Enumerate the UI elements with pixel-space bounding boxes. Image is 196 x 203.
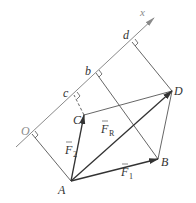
label-vector-FR: F R bbox=[100, 121, 115, 138]
projection-line-D-d bbox=[132, 42, 172, 91]
label-point-D: D bbox=[173, 84, 183, 98]
right-angle-marker-c bbox=[77, 92, 80, 99]
projection-line-C-c bbox=[74, 95, 84, 115]
label-projection-c: c bbox=[63, 86, 69, 100]
right-angle-marker-O bbox=[35, 131, 38, 138]
label-FR-main: F bbox=[100, 122, 109, 136]
projection-line-B-b bbox=[96, 73, 158, 159]
label-projection-d: d bbox=[123, 28, 130, 42]
label-point-B: B bbox=[161, 155, 169, 169]
label-FR-sub: R bbox=[109, 129, 115, 138]
x-axis-line bbox=[16, 18, 154, 147]
label-projection-b: b bbox=[85, 64, 91, 78]
label-x-axis: x bbox=[139, 6, 145, 18]
label-F1-sub: 1 bbox=[129, 172, 133, 181]
label-origin-O: O bbox=[21, 124, 30, 138]
label-point-C: C bbox=[73, 113, 82, 127]
right-angle-marker-d bbox=[135, 39, 138, 46]
right-angle-marker-b bbox=[99, 70, 102, 77]
diagram-svg: A B C D O c b d x F 1 F 2 F R bbox=[0, 0, 196, 203]
force-projection-diagram: A B C D O c b d x F 1 F 2 F R bbox=[0, 0, 196, 203]
label-F2-main: F bbox=[64, 143, 73, 157]
label-F2-sub: 2 bbox=[73, 150, 77, 159]
label-point-A: A bbox=[57, 183, 66, 197]
label-vector-F2: F 2 bbox=[64, 142, 77, 159]
projection-line-A-O bbox=[32, 134, 71, 181]
label-vector-F1: F 1 bbox=[120, 164, 133, 181]
label-F1-main: F bbox=[120, 165, 129, 179]
